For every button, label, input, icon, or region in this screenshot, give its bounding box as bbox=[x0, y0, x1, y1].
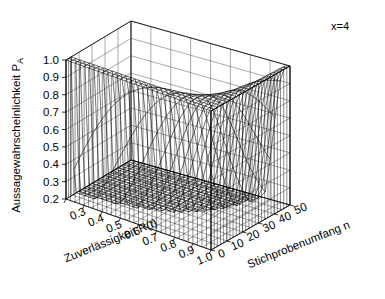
surface-plot-canvas: 0.20.30.40.50.60.70.80.91.00.30.40.50.60… bbox=[0, 0, 385, 299]
ztick-0.9: 0.9 bbox=[43, 71, 59, 83]
ztick-1.0: 1.0 bbox=[43, 54, 59, 66]
ytick-0: 0 bbox=[216, 247, 226, 261]
ytick-50: 50 bbox=[292, 200, 308, 216]
ztick-0.8: 0.8 bbox=[43, 89, 59, 101]
xtick-0.8: 0.8 bbox=[159, 237, 178, 254]
xtick-0.9: 0.9 bbox=[177, 243, 196, 260]
ztick-0.4: 0.4 bbox=[43, 158, 60, 170]
xtick-0.4: 0.4 bbox=[86, 211, 106, 228]
ztick-0.7: 0.7 bbox=[43, 106, 59, 118]
ztick-0.5: 0.5 bbox=[43, 141, 59, 153]
xtick-1.0: 1.0 bbox=[195, 250, 214, 267]
ztick-0.3: 0.3 bbox=[43, 176, 59, 188]
ztick-0.6: 0.6 bbox=[43, 124, 59, 136]
annotation-x-value: x=4 bbox=[331, 20, 349, 32]
ztick-0.2: 0.2 bbox=[43, 193, 59, 205]
xtick-0.3: 0.3 bbox=[68, 205, 87, 222]
surface-plot-figure: 0.20.30.40.50.60.70.80.91.00.30.40.50.60… bbox=[0, 0, 385, 299]
z-axis-label: Aussagewahrscheinlichkeit PA bbox=[10, 58, 25, 213]
axis-text-layer: 0.20.30.40.50.60.70.80.91.00.30.40.50.60… bbox=[10, 20, 351, 270]
